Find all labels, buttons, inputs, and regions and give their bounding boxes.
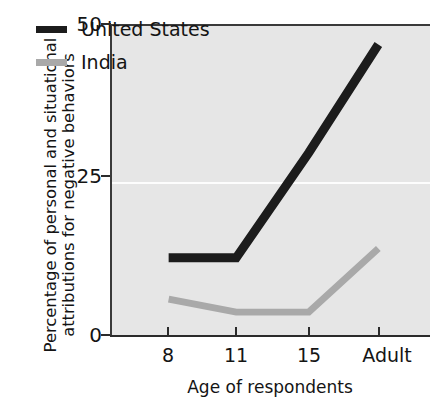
series-line-united-states bbox=[169, 45, 379, 258]
x-tick-mark-15 bbox=[308, 327, 310, 337]
legend-item-india: India bbox=[36, 51, 210, 73]
x-tick-label-15: 15 bbox=[297, 344, 321, 366]
x-tick-mark-11 bbox=[235, 327, 237, 337]
legend-swatch-india bbox=[36, 59, 67, 66]
x-tick-label-8: 8 bbox=[162, 344, 174, 366]
chart-legend: United States India bbox=[36, 18, 210, 73]
x-axis-title: Age of respondents bbox=[110, 377, 430, 397]
x-tick-mark-adult bbox=[378, 327, 380, 337]
chart-figure: Percentage of personal and situational a… bbox=[0, 0, 430, 410]
y-tick-label-25: 25 bbox=[56, 164, 102, 188]
x-tick-label-11: 11 bbox=[224, 344, 248, 366]
legend-label-united-states: United States bbox=[81, 20, 210, 39]
y-tick-label-0: 0 bbox=[56, 323, 102, 347]
legend-swatch-united-states bbox=[36, 26, 67, 33]
x-tick-mark-8 bbox=[167, 327, 169, 337]
x-tick-label-adult: Adult bbox=[362, 344, 412, 366]
x-axis-line bbox=[110, 335, 430, 337]
legend-item-united-states: United States bbox=[36, 18, 210, 40]
legend-label-india: India bbox=[81, 53, 128, 72]
